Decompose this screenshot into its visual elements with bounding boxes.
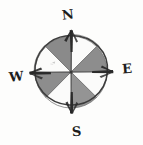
label-south: S <box>72 125 82 139</box>
label-north: N <box>61 7 74 21</box>
compass-hub <box>70 71 73 74</box>
compass-rose-figure: N E W S <box>0 0 143 145</box>
label-west: W <box>8 69 24 83</box>
label-east: E <box>121 62 132 76</box>
